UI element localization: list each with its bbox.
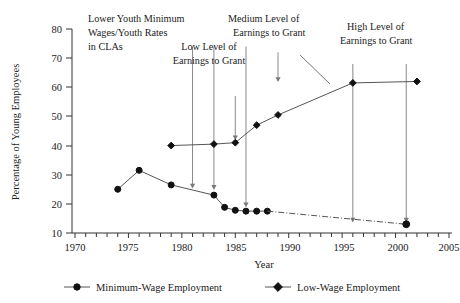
medium-level-leader-line	[300, 55, 330, 84]
annotation-medium-level: Medium Level of Earnings to Grant	[228, 13, 306, 38]
annot-line: in CLAs	[88, 41, 123, 52]
legend-item-low-wage[interactable]: Low-Wage Employment	[265, 282, 400, 293]
series-diamond	[168, 78, 421, 149]
x-tick-labels: 1970 1975 1980 1985 1990 1995 2000 2005	[65, 242, 460, 253]
annot-line: Wages/Youth Rates	[88, 27, 167, 38]
y-tick-label: 40	[52, 141, 63, 152]
annotation-lower-youth: Lower Youth Minimum Wages/Youth Rates in…	[88, 13, 185, 52]
legend-marker-circle-icon	[74, 284, 80, 290]
data-point-circle	[211, 192, 217, 198]
data-point-circle	[168, 182, 174, 188]
legend-marker-diamond-icon	[274, 283, 283, 292]
data-point-diamond	[414, 78, 421, 85]
data-series-group	[115, 78, 421, 228]
annotation-arrows	[190, 46, 409, 222]
x-tick-label: 1980	[172, 242, 193, 253]
data-point-diamond	[168, 142, 175, 149]
y-tick-label: 80	[52, 24, 63, 35]
x-tick-label: 1990	[280, 242, 301, 253]
y-axis-title: Percentage of Young Employees	[10, 64, 21, 200]
x-tick-label: 1975	[118, 242, 139, 253]
data-point-diamond	[211, 141, 218, 148]
y-tick-label: 60	[52, 82, 63, 93]
y-tick-labels: 80 70 60 50 40 30 20 10	[52, 24, 63, 239]
annot-line: High Level of	[347, 21, 405, 32]
annot-line: Earnings to Grant	[233, 27, 306, 38]
data-point-circle	[403, 221, 410, 228]
y-ticks-group	[66, 29, 72, 233]
data-point-circle	[115, 186, 121, 192]
y-tick-label: 20	[52, 199, 63, 210]
chart-svg: 80 70 60 50 40 30 20 10 1970 1975 1980 1…	[0, 0, 460, 303]
x-tick-label: 2000	[388, 242, 409, 253]
x-tick-label: 2005	[439, 242, 460, 253]
y-tick-label: 30	[52, 170, 63, 181]
data-point-circle	[222, 204, 228, 210]
data-point-diamond	[349, 80, 356, 87]
x-tick-label: 1995	[334, 242, 355, 253]
chart-figure: 80 70 60 50 40 30 20 10 1970 1975 1980 1…	[0, 0, 460, 303]
legend-label: Minimum-Wage Employment	[96, 282, 222, 293]
annot-line: Earnings to Grant	[340, 35, 413, 46]
annotation-low-level: Low Level of Earnings to Grant	[173, 41, 246, 66]
legend-item-minimum-wage[interactable]: Minimum-Wage Employment	[64, 282, 222, 293]
annot-line: Earnings to Grant	[173, 55, 246, 66]
series-circle-projection	[267, 211, 409, 228]
annotation-high-level: High Level of Earnings to Grant	[340, 21, 413, 46]
data-point-circle	[243, 208, 249, 214]
y-tick-label: 70	[52, 53, 63, 64]
x-tick-label: 1985	[226, 242, 247, 253]
legend: Minimum-Wage Employment Low-Wage Employm…	[64, 282, 400, 293]
data-point-circle	[254, 208, 260, 214]
x-axis-title: Year	[254, 259, 274, 270]
y-tick-label: 50	[52, 111, 63, 122]
annot-line: Low Level of	[181, 41, 237, 52]
x-tick-label: 1970	[65, 242, 86, 253]
annot-line: Lower Youth Minimum	[88, 13, 185, 24]
y-tick-label: 10	[52, 228, 63, 239]
legend-label: Low-Wage Employment	[297, 282, 400, 293]
axes-group	[72, 29, 452, 233]
data-point-circle	[136, 167, 142, 173]
data-point-circle	[232, 207, 238, 213]
annot-line: Medium Level of	[228, 13, 300, 24]
data-point-diamond	[275, 112, 282, 119]
x-ticks-group	[75, 233, 449, 238]
